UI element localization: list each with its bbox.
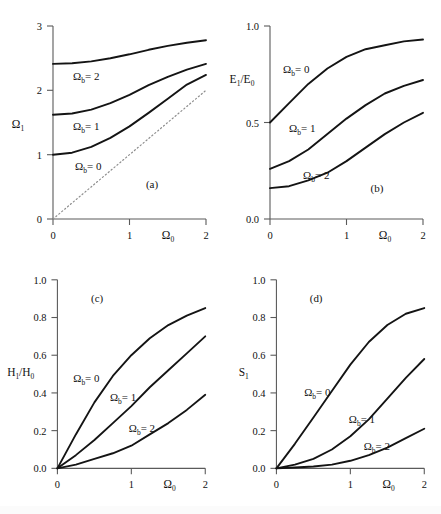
y-ticklabel-d-4: 0.8 <box>252 312 265 323</box>
curve-label-b-1: Ωb= 1 <box>289 122 315 137</box>
x-ticklabel-d-0: 0 <box>274 479 279 490</box>
curve-d-omega-b-0 <box>276 308 424 468</box>
panel-d-plot: 0.0 0.2 0.4 0.6 0.8 1.0 0 1 2 Ω0 S1 Ωb= … <box>221 255 441 512</box>
y-ticklabel-d-5: 1.0 <box>252 275 265 286</box>
y-ticklabel-d-3: 0.6 <box>252 350 265 361</box>
panel-tag-a: (a) <box>146 178 159 191</box>
y-ticklabel-b-2: 1.0 <box>246 21 259 32</box>
x-ticklabel-b-1: 1 <box>344 230 349 241</box>
y-ticklabel-a-1: 1 <box>37 150 42 161</box>
y-ticklabel-a-2: 2 <box>37 85 42 96</box>
x-ticklabel-b-0: 0 <box>267 230 272 241</box>
y-ticklabel-c-2: 0.4 <box>33 388 47 399</box>
x-axis-label-a: Ω0 <box>162 229 175 244</box>
panel-c: 0.0 0.2 0.4 0.6 0.8 1.0 0 1 2 Ω0 H1/H0 Ω… <box>0 255 220 512</box>
y-ticklabel-a-0: 0 <box>37 214 42 225</box>
y-axis-label-c: H1/H0 <box>7 366 34 381</box>
y-ticklabel-d-0: 0.0 <box>252 463 265 474</box>
x-ticklabel-d-2: 2 <box>422 479 427 490</box>
y-axis-label-b: E1/E0 <box>230 73 255 88</box>
figure-canvas: 0 1 2 3 0 1 2 Ω0 Ω1 Ωb= 0 Ωb= 1 Ωb= 2 (a… <box>0 0 441 514</box>
panel-b: 0.0 0.5 1.0 0 1 2 Ω0 E1/E0 Ωb= 0 Ωb= 1 Ω… <box>221 0 441 257</box>
y-ticklabel-c-1: 0.2 <box>33 426 46 437</box>
panel-a: 0 1 2 3 0 1 2 Ω0 Ω1 Ωb= 0 Ωb= 1 Ωb= 2 (a… <box>0 0 220 257</box>
curve-d-omega-b-2 <box>276 429 424 469</box>
y-ticklabel-d-1: 0.2 <box>252 426 265 437</box>
x-ticklabel-c-1: 1 <box>129 479 134 490</box>
y-ticklabel-d-2: 0.4 <box>252 388 266 399</box>
curve-b-omega-b-0 <box>270 40 423 123</box>
curve-label-a-0: Ωb= 0 <box>75 160 102 175</box>
curve-c-omega-b-0 <box>57 308 205 468</box>
x-axis-label-d: Ω0 <box>382 478 394 493</box>
y-ticklabel-c-4: 0.8 <box>33 312 46 323</box>
curve-a-omega-b-2 <box>53 40 206 64</box>
curve-label-b-0: Ωb= 0 <box>283 63 310 78</box>
x-axis-label-b: Ω0 <box>379 229 392 244</box>
y-ticklabel-b-1: 0.5 <box>246 118 259 129</box>
curve-a-omega-b-0 <box>53 75 206 155</box>
page-edge-strip <box>0 506 441 514</box>
x-ticklabel-a-2: 2 <box>203 230 208 241</box>
panel-tag-c: (c) <box>91 292 103 305</box>
y-ticklabel-a-3: 3 <box>37 21 42 32</box>
x-ticklabel-b-2: 2 <box>420 230 425 241</box>
y-ticklabel-c-3: 0.6 <box>33 350 46 361</box>
curve-label-a-2: Ωb= 2 <box>73 70 99 85</box>
curve-label-d-2: Ωb= 2 <box>364 440 390 455</box>
y-ticklabel-c-0: 0.0 <box>33 463 46 474</box>
panel-d: 0.0 0.2 0.4 0.6 0.8 1.0 0 1 2 Ω0 S1 Ωb= … <box>221 255 441 512</box>
y-axis-label-d: S1 <box>239 366 249 381</box>
reference-diagonal-a <box>53 90 206 219</box>
x-ticklabel-d-1: 1 <box>348 479 353 490</box>
x-ticklabel-a-1: 1 <box>127 230 132 241</box>
panel-a-plot: 0 1 2 3 0 1 2 Ω0 Ω1 Ωb= 0 Ωb= 1 Ωb= 2 (a… <box>0 0 220 257</box>
curve-label-a-1: Ωb= 1 <box>73 120 99 135</box>
y-axis-label-a: Ω1 <box>12 118 25 133</box>
x-axis-label-c: Ω0 <box>163 478 175 493</box>
x-ticklabel-c-2: 2 <box>203 479 208 490</box>
y-ticklabel-b-0: 0.0 <box>246 214 259 225</box>
x-ticklabel-a-0: 0 <box>50 230 55 241</box>
panel-tag-d: (d) <box>310 292 323 305</box>
x-ticklabel-c-0: 0 <box>55 479 60 490</box>
curve-label-c-0: Ωb= 0 <box>73 372 100 387</box>
y-ticklabel-c-5: 1.0 <box>33 275 46 286</box>
curve-label-c-1: Ωb= 1 <box>110 391 136 406</box>
panel-c-plot: 0.0 0.2 0.4 0.6 0.8 1.0 0 1 2 Ω0 H1/H0 Ω… <box>0 255 220 512</box>
panel-b-plot: 0.0 0.5 1.0 0 1 2 Ω0 E1/E0 Ωb= 0 Ωb= 1 Ω… <box>221 0 441 257</box>
panel-tag-b: (b) <box>371 182 384 195</box>
